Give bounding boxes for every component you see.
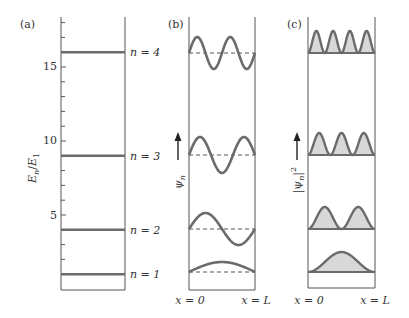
quantum-box-figure: (a) 5 10 15 En/E1 n = 1n = 2n = 3n = 4 (…: [0, 0, 409, 318]
x-right-label: x = L: [360, 294, 390, 307]
x-right-label: x = L: [241, 294, 271, 307]
psi-axis-label: ψn: [172, 175, 187, 189]
y-tick-label-5: 5: [50, 209, 57, 222]
panel-b-wavefunctions: (b) ψn x = 0 x = L: [168, 17, 271, 307]
energy-levels: n = 1n = 2n = 3n = 4: [61, 46, 160, 281]
panel-a-energy-levels: (a) 5 10 15 En/E1 n = 1n = 2n = 3n = 4: [20, 17, 160, 290]
level-label-n1: n = 1: [130, 268, 160, 281]
y-axis-ticks: [61, 23, 66, 275]
y-axis-label: En/E1: [26, 153, 41, 184]
level-label-n3: n = 3: [130, 150, 160, 163]
up-arrow-icon: [175, 132, 182, 160]
wavefunction-curves: [189, 37, 255, 272]
panel-a-label: (a): [20, 18, 35, 31]
up-arrow-icon: [294, 132, 301, 160]
panel-c-probability: (c) |ψn|2 x = 0 x = L: [287, 17, 390, 307]
level-label-n4: n = 4: [130, 46, 160, 59]
x-left-label: x = 0: [294, 294, 323, 307]
level-label-n2: n = 2: [130, 224, 160, 237]
y-tick-label-15: 15: [43, 60, 57, 73]
x-left-label: x = 0: [175, 294, 204, 307]
wavefunction-n1: [189, 262, 255, 272]
density-axis-label: |ψn|2: [289, 167, 306, 193]
panel-c-label: (c): [287, 18, 302, 31]
y-tick-label-10: 10: [43, 134, 57, 147]
probability-density-curves: [308, 31, 375, 272]
panel-b-label: (b): [168, 18, 184, 31]
